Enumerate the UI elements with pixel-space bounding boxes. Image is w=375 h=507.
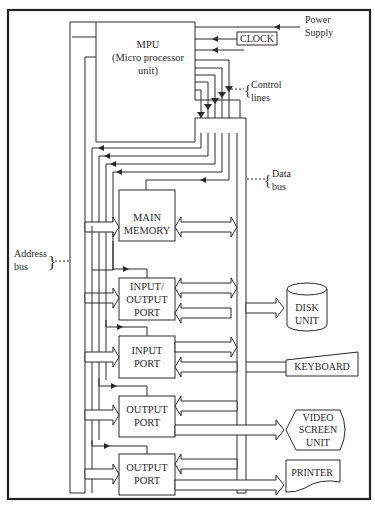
address-bus-label-2: bus <box>14 261 28 272</box>
disk-unit: DISK UNIT <box>287 283 327 331</box>
mpu-label: MPU <box>137 39 160 50</box>
keyboard-label: KEYBOARD <box>294 361 350 372</box>
power-label-2: Supply <box>305 27 333 38</box>
address-brace: } <box>48 253 56 272</box>
io-port-label-3: PORT <box>134 307 161 318</box>
video-label-2: SCREEN <box>299 424 337 435</box>
output-port-2-block: OUTPUT PORT <box>85 440 284 495</box>
power-label: Power <box>305 14 331 25</box>
mpu-label-3: unit) <box>138 65 158 77</box>
output-port-1-label: OUTPUT <box>126 404 168 415</box>
video-label-3: UNIT <box>306 437 330 448</box>
disk-label-2: UNIT <box>295 315 319 326</box>
keyboard: KEYBOARD <box>286 352 358 376</box>
io-port-label: INPUT/ <box>130 281 164 292</box>
video-label: VIDEO <box>302 412 333 423</box>
io-port-label-2: OUTPUT <box>126 294 168 305</box>
main-memory-block: MAIN MEMORY <box>85 190 237 241</box>
address-bus-label: Address <box>14 248 47 259</box>
input-port-label: INPUT <box>132 345 164 356</box>
main-memory-label: MAIN <box>133 212 161 223</box>
control-lines-label: Control <box>251 79 282 90</box>
output-port-1-block: OUTPUT PORT <box>85 378 284 440</box>
printer-label: PRINTER <box>291 467 333 478</box>
third-input-line <box>195 47 244 53</box>
input-port-block: INPUT PORT <box>85 320 286 378</box>
data-brace: { <box>264 172 271 188</box>
input-port-label-2: PORT <box>134 358 161 369</box>
disk-label: DISK <box>295 302 319 313</box>
mpu-block: MPU (Micro processor unit) <box>96 22 240 142</box>
microcomputer-block-diagram: MPU (Micro processor unit) Power Supply … <box>0 0 375 507</box>
arrow-left-icon <box>274 24 280 30</box>
control-lines-label-2: lines <box>251 92 270 103</box>
data-bus-label: Data <box>272 168 291 179</box>
output-port-2-label: OUTPUT <box>126 462 168 473</box>
io-port-block: INPUT/ OUTPUT PORT <box>85 232 284 323</box>
video-screen-unit: VIDEO SCREEN UNIT <box>286 410 345 450</box>
mpu-label-2: (Micro processor <box>112 52 185 64</box>
output-port-1-label-2: PORT <box>134 417 161 428</box>
main-memory-label-2: MEMORY <box>124 225 171 236</box>
data-bus-label-2: bus <box>272 181 286 192</box>
printer: PRINTER <box>286 460 340 492</box>
clock-label: CLOCK <box>240 33 275 44</box>
clock-block: CLOCK <box>195 32 277 45</box>
output-port-2-label-2: PORT <box>134 475 161 486</box>
address-bus-label-group: Address bus } <box>14 248 70 272</box>
